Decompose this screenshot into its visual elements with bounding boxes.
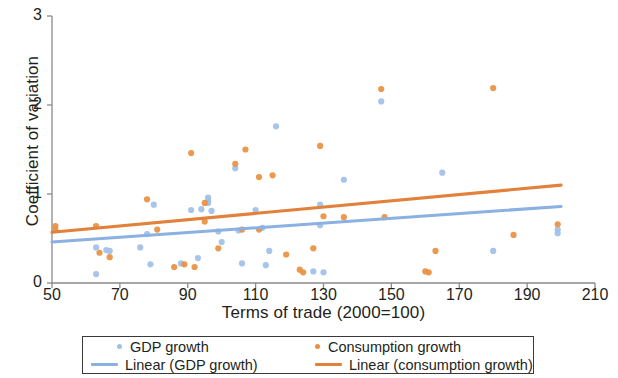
data-point xyxy=(154,227,160,233)
data-point xyxy=(219,239,225,245)
data-point xyxy=(107,248,113,254)
legend-marker-dot-icon xyxy=(315,344,320,349)
chart-legend: GDP growth Consumption growth Linear (GD… xyxy=(82,336,534,374)
x-tick-label: 90 xyxy=(168,286,208,304)
legend-marker-dot-icon xyxy=(117,344,122,349)
legend-marker-line-icon xyxy=(315,363,342,366)
data-point xyxy=(310,245,316,251)
legend-label-linear-gdp-growth: Linear (GDP growth) xyxy=(125,357,258,373)
legend-item-linear-gdp-growth: Linear (GDP growth) xyxy=(83,357,311,373)
x-tick-label: 130 xyxy=(304,286,344,304)
y-tick-label: 0 xyxy=(18,273,42,291)
data-point xyxy=(107,254,113,260)
data-point xyxy=(283,251,289,257)
data-point xyxy=(96,250,102,256)
data-point xyxy=(555,230,561,236)
data-point xyxy=(232,161,238,167)
x-axis-title: Terms of trade (2000=100) xyxy=(52,303,595,323)
legend-item-gdp-growth: GDP growth xyxy=(83,339,311,355)
data-point xyxy=(137,244,143,250)
data-point xyxy=(144,196,150,202)
data-point xyxy=(378,98,384,104)
data-point xyxy=(195,255,201,261)
data-point xyxy=(341,177,347,183)
legend-label-gdp-growth: GDP growth xyxy=(130,339,209,355)
data-point xyxy=(432,248,438,254)
data-point xyxy=(215,245,221,251)
x-tick-label: 190 xyxy=(507,286,547,304)
data-point xyxy=(188,150,194,156)
legend-row-trendlines: Linear (GDP growth) Linear (consumption … xyxy=(83,356,533,373)
x-tick-label: 170 xyxy=(439,286,479,304)
data-point xyxy=(300,269,306,275)
x-tick-label: 150 xyxy=(371,286,411,304)
legend-label-linear-consumption-growth: Linear (consumption growth) xyxy=(349,357,533,373)
data-point xyxy=(256,174,262,180)
x-tick-label: 210 xyxy=(575,286,615,304)
data-point xyxy=(310,268,316,274)
data-point xyxy=(273,123,279,129)
data-point xyxy=(181,261,187,267)
data-point xyxy=(490,85,496,91)
legend-item-consumption-growth: Consumption growth xyxy=(311,339,461,355)
data-point xyxy=(208,208,214,214)
y-tick-label: 3 xyxy=(18,6,42,24)
x-tick-label: 70 xyxy=(100,286,140,304)
legend-label-consumption-growth: Consumption growth xyxy=(328,339,461,355)
legend-item-linear-consumption-growth: Linear (consumption growth) xyxy=(311,357,533,373)
legend-row-markers: GDP growth Consumption growth xyxy=(83,338,533,355)
data-point xyxy=(93,271,99,277)
data-point xyxy=(320,269,326,275)
data-point xyxy=(171,264,177,270)
data-point xyxy=(269,172,275,178)
data-point xyxy=(242,146,248,152)
data-point xyxy=(198,206,204,212)
data-point xyxy=(188,207,194,213)
scatter-series-consumption-growth xyxy=(52,85,560,275)
data-point xyxy=(490,248,496,254)
data-point xyxy=(341,214,347,220)
data-point xyxy=(378,86,384,92)
scatter-series-gdp-growth xyxy=(93,98,561,277)
data-point xyxy=(439,170,445,176)
data-point xyxy=(426,269,432,275)
data-point xyxy=(510,232,516,238)
axis-spines xyxy=(52,16,595,283)
data-point xyxy=(93,244,99,250)
x-tick-label: 110 xyxy=(236,286,276,304)
data-point xyxy=(147,261,153,267)
data-point xyxy=(191,264,197,270)
data-point xyxy=(263,262,269,268)
data-point xyxy=(320,213,326,219)
data-point xyxy=(266,248,272,254)
data-point xyxy=(202,200,208,206)
data-point xyxy=(239,260,245,266)
data-point xyxy=(151,202,157,208)
data-point xyxy=(317,143,323,149)
y-tick-label: 1 xyxy=(18,184,42,202)
y-axis-title: Coefficient of variation xyxy=(23,16,43,266)
legend-marker-line-icon xyxy=(91,363,118,366)
data-point xyxy=(555,221,561,227)
scatter-chart-figure: Coefficient of variation Terms of trade … xyxy=(0,0,618,378)
y-tick-label: 2 xyxy=(18,95,42,113)
